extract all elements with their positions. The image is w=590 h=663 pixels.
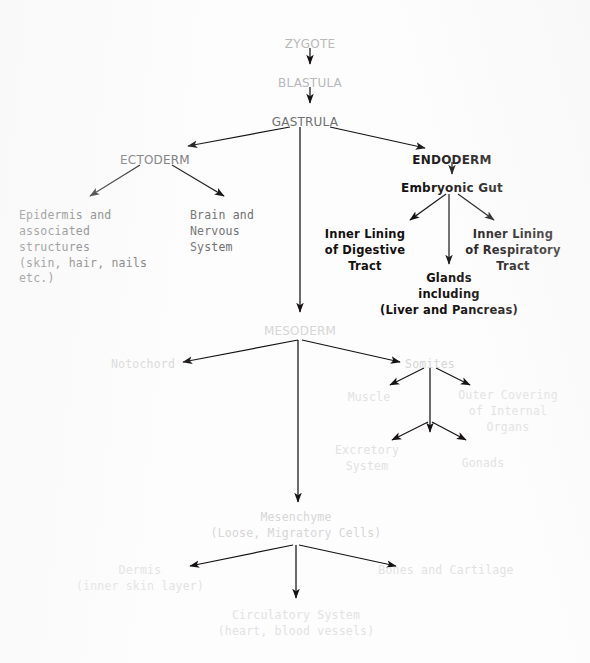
node-glands: Glands including (Liver and Pancreas) [380,271,518,319]
node-epidermis: Epidermis and associated structures (ski… [19,208,147,287]
node-outer-cover: Outer Covering of Internal Organs [458,388,558,436]
node-mesoderm: MESODERM [264,323,336,340]
edge-embryonic-gut-to-digestive [410,194,446,220]
edge-mesenchyme-to-dermis [190,545,293,566]
node-muscle: Muscle [348,390,391,406]
diagram-canvas: ZYGOTEBLASTULAGASTRULAECTODERMENDODERMEm… [0,0,590,663]
node-endoderm: ENDODERM [412,152,491,169]
edge-ectoderm-to-epidermis [90,165,140,196]
edge-embryonic-gut-to-respiratory [458,194,494,220]
node-notochord: Notochord [111,357,175,373]
node-gonads: Gonads [462,456,505,472]
node-ectoderm: ECTODERM [120,152,190,169]
edge-excretory-hub-to-excretory [392,422,428,440]
node-dermis: Dermis (inner skin layer) [76,563,204,595]
node-brain: Brain and Nervous System [190,208,254,256]
node-mesenchyme: Mesenchyme (Loose, Migratory Cells) [211,510,382,542]
node-zygote: ZYGOTE [285,36,335,53]
node-circulatory: Circulatory System (heart, blood vessels… [218,608,375,640]
node-blastula: BLASTULA [278,75,342,92]
node-bones: Bones and Cartilage [378,563,513,579]
node-gastrula: GASTRULA [272,114,338,131]
edge-ectoderm-to-brain [172,165,224,196]
node-digestive: Inner Lining of Digestive Tract [325,227,405,275]
node-excretory: Excretory System [335,443,399,475]
node-somites: Somites [405,357,455,373]
node-embryonic-gut: Embryonic Gut [401,180,503,197]
edge-gastrula-to-endoderm [330,127,425,148]
edge-mesoderm-to-notochord [183,340,298,362]
edge-mesoderm-to-somites [302,340,400,362]
node-respiratory: Inner Lining of Respiratory Tract [465,227,560,275]
